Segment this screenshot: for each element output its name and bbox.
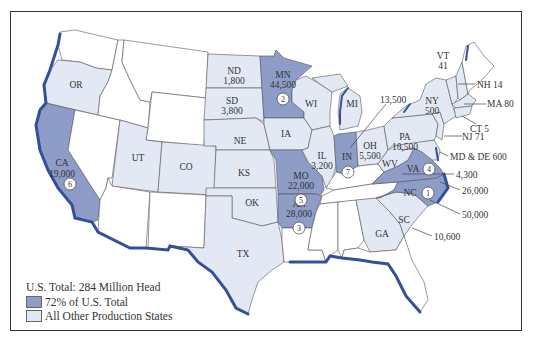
label-oh: OH xyxy=(363,141,377,151)
svg-text:5: 5 xyxy=(299,196,303,205)
value-vt: 41 xyxy=(438,61,448,71)
value-pa: 10,500 xyxy=(392,142,418,152)
label-ca: CA xyxy=(55,158,68,168)
label-va: VA xyxy=(407,164,420,174)
label-tx: TX xyxy=(237,249,250,259)
state-wy xyxy=(146,92,206,146)
callout-ma: MA 80 xyxy=(487,99,514,109)
label-ks: KS xyxy=(238,168,250,178)
label-il: IL xyxy=(318,151,327,161)
rank-badge-va: 4 xyxy=(423,163,435,175)
label-nd: ND xyxy=(227,66,241,76)
legend-swatch-top xyxy=(26,296,42,308)
rank-badge-ar: 3 xyxy=(293,222,305,234)
callout-sc: 10,600 xyxy=(434,232,460,242)
label-ut: UT xyxy=(132,153,145,163)
value-mo: 22,000 xyxy=(288,181,314,191)
state-nm xyxy=(148,192,206,250)
label-or: OR xyxy=(69,80,83,90)
value-sd: 3,800 xyxy=(221,106,243,116)
svg-text:7: 7 xyxy=(346,168,350,177)
label-mi: MI xyxy=(346,99,358,109)
label-pa: PA xyxy=(399,132,410,142)
legend-other-label: All Other Production States xyxy=(45,309,172,324)
rank-badge-in: 7 xyxy=(342,166,354,178)
label-sc: SC xyxy=(398,215,410,225)
label-ia: IA xyxy=(281,129,291,139)
value-oh: 5,500 xyxy=(359,151,381,161)
value-il: 3,200 xyxy=(311,161,333,171)
svg-text:4: 4 xyxy=(427,165,431,174)
label-mo: MO xyxy=(293,171,308,181)
value-nd: 1,800 xyxy=(223,76,245,86)
label-sd: SD xyxy=(226,96,238,106)
callout-nh: NH 14 xyxy=(477,80,503,90)
callout-nc: 50,000 xyxy=(462,210,488,220)
callout-mi: 13,500 xyxy=(380,95,406,105)
label-vt: VT xyxy=(437,51,450,61)
legend-top-label: 72% of U.S. Total xyxy=(45,295,128,310)
value-ar: 28,000 xyxy=(286,209,312,219)
svg-text:3: 3 xyxy=(297,224,301,233)
label-co: CO xyxy=(179,162,192,172)
label-ny: NY xyxy=(425,96,439,106)
label-nc: NC xyxy=(403,188,416,198)
label-ga: GA xyxy=(375,229,389,239)
svg-text:6: 6 xyxy=(68,180,72,189)
legend-top: 72% of U.S. Total xyxy=(26,295,172,310)
label-mn: MN xyxy=(275,70,290,80)
label-in: IN xyxy=(342,152,352,162)
label-wv: WV xyxy=(382,159,398,169)
value-mn: 44,500 xyxy=(270,80,296,90)
rank-badge-mn: 2 xyxy=(277,93,289,105)
callout-md-de: MD & DE 600 xyxy=(450,152,507,162)
legend-other: All Other Production States xyxy=(26,309,172,324)
callout-nj: NJ 71 xyxy=(462,132,485,142)
rank-badge-nc: 1 xyxy=(422,187,434,199)
legend: U.S. Total: 284 Million Head 72% of U.S.… xyxy=(26,280,172,324)
callout-va: 4,300 xyxy=(456,170,478,180)
label-ok: OK xyxy=(245,198,259,208)
svg-text:1: 1 xyxy=(426,189,430,198)
label-wi: WI xyxy=(305,99,317,109)
svg-text:2: 2 xyxy=(281,95,285,104)
legend-swatch-other xyxy=(26,310,42,322)
legend-total: U.S. Total: 284 Million Head xyxy=(26,280,172,295)
label-ne: NE xyxy=(234,136,247,146)
callout-wv: 26,000 xyxy=(462,186,488,196)
value-ny: 500 xyxy=(425,106,440,116)
rank-badge-ca: 6 xyxy=(64,178,76,190)
rank-badge-mo: 5 xyxy=(295,194,307,206)
value-ca: 19,000 xyxy=(49,169,75,179)
